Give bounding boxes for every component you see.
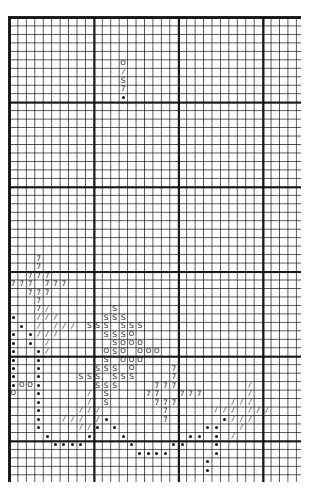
seven-symbol: 7: [43, 288, 51, 296]
dot-symbol: [34, 364, 42, 372]
s-symbol: S: [119, 330, 127, 338]
circle-symbol: O: [17, 381, 25, 389]
slash-symbol: /: [60, 322, 68, 330]
dot-symbol: [170, 441, 178, 449]
s-symbol: S: [77, 373, 85, 381]
dot-symbol: [212, 432, 220, 440]
slash-symbol: /: [263, 407, 271, 415]
dot-symbol: [186, 432, 194, 440]
s-symbol: S: [102, 364, 110, 372]
dot-symbol: [220, 415, 228, 423]
slash-symbol: /: [43, 313, 51, 321]
slash-symbol: /: [94, 415, 102, 423]
seven-symbol: 7: [34, 271, 42, 279]
slash-symbol: /: [229, 407, 237, 415]
dot-symbol: [34, 373, 42, 381]
slash-symbol: /: [43, 339, 51, 347]
circle-symbol: O: [144, 347, 152, 355]
dot-symbol: [43, 432, 51, 440]
s-symbol: S: [127, 373, 135, 381]
slash-symbol: /: [34, 313, 42, 321]
dot-symbol: [51, 441, 59, 449]
circle-symbol: O: [119, 356, 127, 364]
dot-symbol: [9, 364, 17, 372]
circle-symbol: O: [127, 339, 135, 347]
s-symbol: S: [102, 356, 110, 364]
seven-symbol: 7: [34, 263, 42, 271]
dot-symbol: [77, 441, 85, 449]
slash-symbol: /: [246, 415, 254, 423]
seven-symbol: 7: [153, 390, 161, 398]
circle-symbol: O: [9, 390, 17, 398]
slash-symbol: /: [229, 415, 237, 423]
legend-circle-symbol: O: [119, 59, 127, 67]
dot-symbol: [178, 441, 186, 449]
slash-symbol: /: [220, 407, 228, 415]
seven-symbol: 7: [26, 288, 34, 296]
seven-symbol: 7: [161, 407, 169, 415]
s-symbol: S: [110, 313, 118, 321]
seven-symbol: 7: [170, 398, 178, 406]
circle-symbol: O: [119, 347, 127, 355]
slash-symbol: /: [85, 424, 93, 432]
legend-slash-symbol: /: [119, 68, 127, 76]
slash-symbol: /: [85, 407, 93, 415]
slash-symbol: /: [34, 322, 42, 330]
seven-symbol: 7: [60, 280, 68, 288]
dot-symbol: [68, 441, 76, 449]
seven-symbol: 7: [153, 398, 161, 406]
dot-symbol: [144, 449, 152, 457]
seven-symbol: 7: [51, 280, 59, 288]
dot-symbol: [212, 441, 220, 449]
seven-symbol: 7: [144, 390, 152, 398]
s-symbol: S: [102, 398, 110, 406]
slash-symbol: /: [43, 330, 51, 338]
seven-symbol: 7: [186, 390, 194, 398]
dot-symbol: [212, 424, 220, 432]
dot-symbol: [85, 432, 93, 440]
seven-symbol: 7: [43, 280, 51, 288]
dot-symbol: [127, 441, 135, 449]
dot-symbol: [9, 339, 17, 347]
dot-symbol: [26, 339, 34, 347]
seven-symbol: 7: [9, 280, 17, 288]
slash-symbol: /: [34, 330, 42, 338]
slash-symbol: /: [77, 415, 85, 423]
dot-symbol: [34, 381, 42, 389]
slash-symbol: /: [68, 322, 76, 330]
slash-symbol: /: [229, 432, 237, 440]
dot-symbol: [9, 381, 17, 389]
slash-symbol: /: [85, 398, 93, 406]
dot-symbol: [212, 449, 220, 457]
slash-symbol: /: [85, 390, 93, 398]
pattern-grid: O/S77777777777777777/S///SSS////SSSSSS//…: [8, 16, 301, 482]
s-symbol: S: [94, 322, 102, 330]
dot-symbol: [110, 424, 118, 432]
slash-symbol: /: [246, 390, 254, 398]
slash-symbol: /: [246, 407, 254, 415]
circle-symbol: O: [136, 347, 144, 355]
dot-symbol: [34, 415, 42, 423]
slash-symbol: /: [43, 347, 51, 355]
slash-symbol: /: [51, 330, 59, 338]
seven-symbol: 7: [170, 373, 178, 381]
slash-symbol: /: [77, 407, 85, 415]
dot-symbol: [34, 390, 42, 398]
dot-symbol: [26, 330, 34, 338]
slash-symbol: /: [237, 415, 245, 423]
dot-symbol: [34, 356, 42, 364]
slash-symbol: /: [237, 424, 245, 432]
slash-symbol: /: [94, 407, 102, 415]
dot-symbol: [9, 313, 17, 321]
slash-symbol: /: [254, 407, 262, 415]
dot-symbol: [34, 398, 42, 406]
dot-symbol: [136, 449, 144, 457]
dot-symbol: [119, 432, 127, 440]
seven-symbol: 7: [178, 390, 186, 398]
dot-symbol: [203, 457, 211, 465]
s-symbol: S: [85, 373, 93, 381]
legend-dot-symbol: [119, 93, 127, 101]
slash-symbol: /: [51, 322, 59, 330]
circle-symbol: O: [119, 339, 127, 347]
circle-symbol: O: [127, 356, 135, 364]
